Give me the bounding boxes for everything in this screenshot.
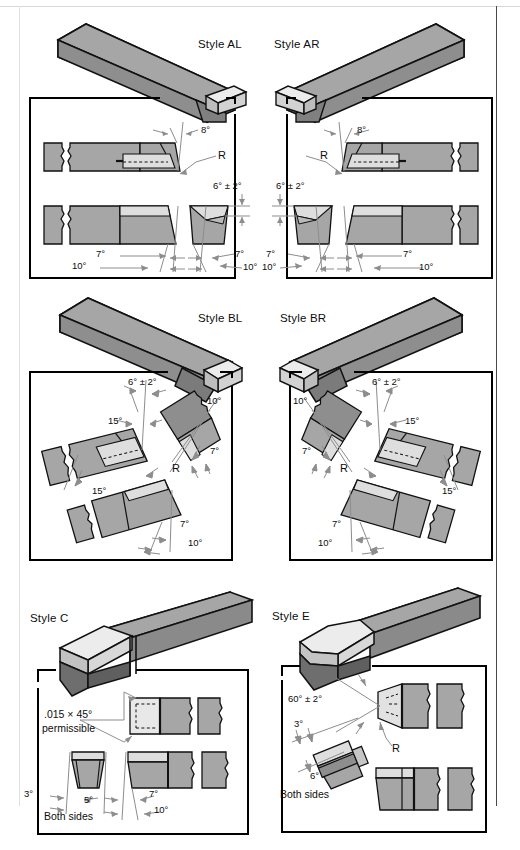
dim-arrows-e-left	[295, 728, 313, 772]
panel-title-br: Style BR	[280, 312, 326, 324]
note-c-permissible: permissible	[42, 722, 95, 735]
dim-ar-radius: R	[320, 149, 328, 161]
dim-e-6deg: 6°	[310, 770, 319, 781]
dim-br-10deg-top: 10°	[293, 395, 307, 406]
detail-view-c-top	[80, 692, 222, 743]
detail-view-e-front	[376, 768, 474, 810]
drawing-page: Style AL 8° R 6° ± 2° 7° 10° 7° 10°	[0, 0, 520, 850]
dim-br-15deg-top: 15°	[405, 415, 419, 426]
detail-view-br-bottom	[341, 478, 455, 544]
panel-title-c: Style C	[30, 612, 68, 624]
dim-bl-10deg-bottom: 10°	[188, 537, 202, 548]
tool-body-c	[60, 592, 252, 696]
dim-c-10deg: 10°	[154, 804, 168, 815]
detail-views-ar	[272, 122, 478, 272]
detail-view-e-nose	[336, 674, 464, 746]
dim-ar-7deg-right: 7°	[403, 248, 412, 259]
note-c-both-sides: Both sides	[44, 810, 93, 823]
dim-al-10deg-left: 10°	[72, 260, 86, 271]
dim-br-7deg-bottom: 7°	[332, 518, 341, 529]
dim-e-3deg: 3°	[294, 718, 303, 729]
tool-body-e	[300, 588, 480, 690]
dim-bl-7deg-bottom: 7°	[180, 518, 189, 529]
dim-ar-6pm2: 6° ± 2°	[276, 180, 305, 191]
dim-c-5deg: 5°	[84, 794, 93, 805]
detail-views-br	[296, 380, 481, 555]
panel-style-ar: Style AR 8° R 6° ± 2° 7° 10° 7° 10°	[262, 10, 502, 290]
panel-style-e: Style E 60° ± 2° R 3° 6° Both sides	[262, 570, 502, 845]
dim-al-10deg-right: 10°	[243, 261, 257, 272]
panel-title-bl: Style BL	[198, 312, 242, 324]
dim-al-radius: R	[218, 149, 226, 161]
detail-view-e-end	[313, 737, 372, 790]
detail-view-ar-end	[272, 194, 332, 272]
note-c-chamfer: .015 × 45°	[44, 708, 92, 721]
panel-style-bl: Style BL 6° ± 2° 10° 15° 7° R 15° 7° 10°	[20, 290, 260, 570]
panel-style-c: Style C .015 × 45° permissible 3° 5° 7° …	[20, 570, 260, 845]
dim-bl-15deg-bottom: 15°	[92, 485, 106, 496]
dim-br-6pm2: 6° ± 2°	[372, 376, 401, 387]
detail-view-bl-bottom	[67, 478, 181, 544]
detail-view-br-side	[375, 427, 480, 485]
dim-bl-15deg-top: 15°	[108, 415, 122, 426]
dim-ar-8deg: 8°	[357, 124, 366, 135]
dim-e-radius: R	[392, 742, 400, 754]
dim-bl-7deg-top: 7°	[210, 445, 219, 456]
dim-bl-6pm2: 6° ± 2°	[128, 376, 157, 387]
dim-ar-7deg-left: 7°	[266, 248, 275, 259]
dim-br-10deg-bottom: 10°	[318, 537, 332, 548]
detail-view-ar-side	[306, 122, 478, 175]
dim-al-7deg-right: 7°	[235, 248, 244, 259]
dim-al-8deg: 8°	[201, 124, 210, 135]
dim-ar-10deg-left: 10°	[262, 261, 276, 272]
panel-title-al: Style AL	[198, 38, 242, 50]
detail-view-al-end	[190, 194, 250, 272]
dim-bl-10deg-top: 10°	[207, 395, 221, 406]
panel-style-al: Style AL 8° R 6° ± 2° 7° 10° 7° 10°	[20, 10, 260, 290]
panel-title-e: Style E	[272, 610, 310, 622]
detail-view-al-side	[44, 122, 216, 175]
dim-al-6pm2: 6° ± 2°	[213, 180, 242, 191]
detail-view-ar-front	[320, 206, 478, 272]
dim-ar-10deg-right: 10°	[419, 261, 433, 272]
page-edge-top	[0, 6, 520, 7]
panel-title-ar: Style AR	[274, 38, 320, 50]
detail-view-c-end	[50, 752, 106, 814]
dim-br-15deg-bottom: 15°	[442, 485, 456, 496]
dim-al-7deg-left: 7°	[96, 248, 105, 259]
dim-e-60pm2: 60° ± 2°	[288, 693, 322, 704]
dim-bl-radius: R	[172, 462, 180, 474]
panel-style-br: Style BR 6° ± 2° 10° 7° 15° R 15° 7° 10°	[262, 290, 502, 570]
dim-c-7deg: 7°	[149, 788, 158, 799]
dim-br-radius: R	[340, 462, 348, 474]
detail-view-bl-side	[42, 427, 147, 485]
panel-border-ar	[287, 98, 492, 278]
note-e-both-sides: Both sides	[280, 788, 329, 801]
detail-view-al-front-left	[44, 206, 202, 272]
dim-c-3deg: 3°	[24, 788, 33, 799]
dim-br-7deg-top: 7°	[302, 445, 311, 456]
